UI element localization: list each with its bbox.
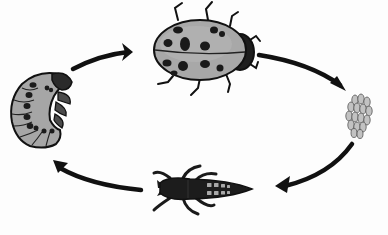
egg-cluster-icon	[346, 94, 372, 139]
arrow-icon	[259, 55, 346, 91]
larva-icon	[11, 73, 72, 148]
arrow-icon	[275, 144, 352, 193]
pupa-icon	[154, 166, 252, 214]
ladybug-adult-icon	[154, 2, 260, 95]
arrow-icon	[73, 43, 133, 69]
life-cycle-diagram: Ladybug life cycle	[0, 0, 388, 235]
arrow-icon	[53, 160, 141, 190]
